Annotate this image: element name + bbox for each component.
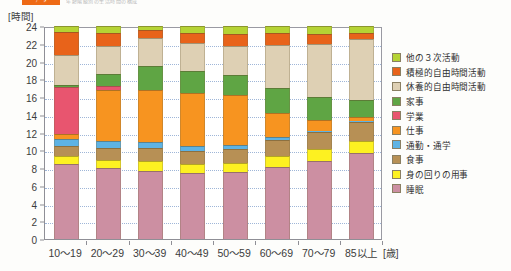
legend-swatch xyxy=(392,155,401,164)
bar-segment xyxy=(307,34,332,44)
x-axis-tick-mark xyxy=(86,241,87,245)
bar-segment xyxy=(265,167,290,239)
legend-swatch xyxy=(392,111,401,120)
legend-item[interactable]: 学業 xyxy=(392,108,510,123)
x-axis: 10～1920～2930～3940～4950～5960～6970～7985以上 xyxy=(44,241,382,267)
legend-item[interactable]: 身の回りの用事 xyxy=(392,167,510,182)
y-axis-tick-label: 22 xyxy=(26,39,37,50)
legend-label: 身の回りの用事 xyxy=(406,168,468,180)
bar-segment xyxy=(180,164,205,174)
legend-label: 仕事 xyxy=(406,124,424,136)
legend-swatch xyxy=(392,97,401,106)
legend-label: 食事 xyxy=(406,153,424,165)
bar-segment xyxy=(265,113,290,137)
legend-label: 学業 xyxy=(406,110,424,122)
legend-label: 睡眠 xyxy=(406,183,424,195)
bar-segment xyxy=(138,30,163,39)
bar-segment xyxy=(265,33,290,45)
legend-item[interactable]: 通勤・通学 xyxy=(392,138,510,153)
legend-label: 休養的自由時間活動 xyxy=(406,80,486,92)
bar-segment xyxy=(96,26,121,33)
bar-segment xyxy=(96,160,121,168)
x-axis-unit-label: [歳] xyxy=(383,245,399,260)
plot-area xyxy=(44,27,382,240)
bar-stack xyxy=(96,26,121,239)
bar-segment xyxy=(54,164,79,239)
bar-segment xyxy=(96,141,121,148)
bar-segment xyxy=(138,148,163,160)
bar-segment xyxy=(265,45,290,88)
bar-segment xyxy=(349,100,374,118)
bar-stack xyxy=(138,26,163,239)
y-axis-tick-label: 6 xyxy=(31,181,37,192)
y-axis-tick-label: 4 xyxy=(31,199,37,210)
x-axis-tick-mark xyxy=(129,241,130,245)
legend-swatch xyxy=(392,184,401,193)
bar-segment xyxy=(180,151,205,163)
bar-segment xyxy=(349,39,374,99)
bar-segment xyxy=(349,122,374,142)
legend-label: 積極的自由時間活動 xyxy=(406,66,486,78)
x-axis-tick-label: 20～29 xyxy=(91,245,124,260)
x-axis-tick-label: 50～59 xyxy=(217,245,250,260)
bar-segment xyxy=(180,43,205,71)
legend-label: 家事 xyxy=(406,95,424,107)
y-axis-tick-label: 24 xyxy=(26,22,37,33)
cropped-header-strip: データ 年齢階級別の生活時間の構成 xyxy=(0,0,511,7)
y-axis-tick-label: 20 xyxy=(26,57,37,68)
y-axis-tick-label: 16 xyxy=(26,93,37,104)
bar-segment xyxy=(223,26,248,34)
bar-segment xyxy=(96,168,121,239)
bar-segment xyxy=(180,71,205,92)
bar-segment xyxy=(307,26,332,34)
legend-item[interactable]: 他の３次活動 xyxy=(392,50,510,65)
legend-label: 通勤・通学 xyxy=(406,139,451,151)
y-axis-tick-label: 8 xyxy=(31,164,37,175)
bar-segment xyxy=(307,97,332,120)
x-axis-tick-mark xyxy=(255,241,256,245)
x-axis-tick-label: 30～39 xyxy=(133,245,166,260)
bar-segment xyxy=(307,132,332,150)
bar-segment xyxy=(96,46,121,74)
y-axis-tick-label: 14 xyxy=(26,110,37,121)
y-axis-tick-label: 2 xyxy=(31,217,37,228)
x-axis-tick-label: 40～49 xyxy=(175,245,208,260)
bar-segment xyxy=(349,26,374,33)
x-axis-tick-mark xyxy=(340,241,341,245)
bar-stack xyxy=(265,26,290,239)
legend-swatch xyxy=(392,140,401,149)
bar-segment xyxy=(223,145,248,149)
legend-item[interactable]: 食事 xyxy=(392,152,510,167)
bar-stack xyxy=(223,26,248,239)
legend-item[interactable]: 睡眠 xyxy=(392,181,510,196)
bar-segment xyxy=(307,120,332,131)
bar-segment xyxy=(96,33,121,46)
bar-segment xyxy=(223,149,248,162)
bar-segment xyxy=(180,93,205,146)
bar-segment xyxy=(307,44,332,97)
bar-segment xyxy=(265,26,290,33)
bar-segment xyxy=(138,26,163,30)
bar-segment xyxy=(54,32,79,55)
bar-segment xyxy=(223,46,248,74)
legend-swatch xyxy=(392,126,401,135)
bar-segment xyxy=(223,34,248,46)
bar-segment xyxy=(265,88,290,113)
bar-segment xyxy=(307,161,332,239)
bar-segment xyxy=(223,172,248,239)
bar-segment xyxy=(54,85,79,87)
x-axis-tick-label: 70～79 xyxy=(302,245,335,260)
legend-item[interactable]: 家事 xyxy=(392,94,510,109)
bar-segment xyxy=(265,156,290,168)
bar-segment xyxy=(138,66,163,90)
bar-stack xyxy=(349,26,374,239)
bar-segment xyxy=(265,137,290,140)
legend-item[interactable]: 積極的自由時間活動 xyxy=(392,65,510,80)
bar-segment xyxy=(223,163,248,173)
x-axis-tick-label: 85以上 xyxy=(345,245,377,260)
x-axis-tick-label: 10～19 xyxy=(48,245,81,260)
legend-item[interactable]: 休養的自由時間活動 xyxy=(392,79,510,94)
bar-segment xyxy=(180,33,205,43)
bar-segment xyxy=(180,26,205,33)
legend-item[interactable]: 仕事 xyxy=(392,123,510,138)
